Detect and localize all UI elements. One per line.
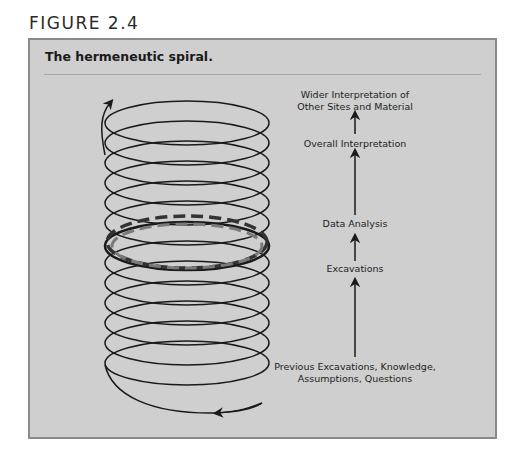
step-label-line1: Wider Interpretation of bbox=[297, 89, 413, 101]
step-label-line1: Previous Excavations, Knowledge, bbox=[274, 361, 436, 373]
step-label-line1: Data Analysis bbox=[323, 218, 388, 230]
spiral-left-arrow bbox=[218, 403, 262, 413]
step-label-line1: Excavations bbox=[326, 263, 383, 275]
step-label-line2: Other Sites and Material bbox=[297, 101, 413, 113]
step-overall-interpretation: Overall Interpretation bbox=[304, 138, 407, 150]
step-data-analysis: Data Analysis bbox=[323, 218, 388, 230]
step-label-line1: Overall Interpretation bbox=[304, 138, 407, 150]
step-previous-knowledge: Previous Excavations, Knowledge, Assumpt… bbox=[274, 361, 436, 385]
step-wider-interpretation: Wider Interpretation of Other Sites and … bbox=[297, 89, 413, 113]
spiral-coils bbox=[105, 101, 269, 385]
step-label-line2: Assumptions, Questions bbox=[274, 373, 436, 385]
step-excavations: Excavations bbox=[326, 263, 383, 275]
hermeneutic-spiral-diagram bbox=[0, 0, 531, 464]
highlighted-coil bbox=[105, 216, 269, 270]
spiral-bottom-tail bbox=[105, 365, 262, 413]
